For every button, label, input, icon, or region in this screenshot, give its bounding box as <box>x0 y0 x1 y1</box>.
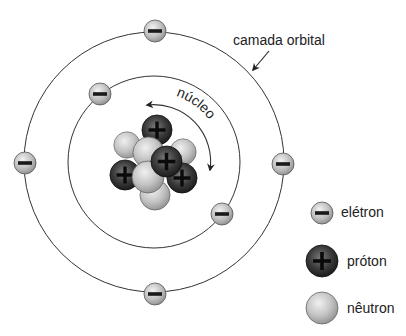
nucleus-label: núcleo <box>175 84 219 122</box>
nucleus <box>110 115 197 210</box>
legend-electron-icon <box>311 202 333 224</box>
legend-proton-icon <box>306 245 338 277</box>
electron-icon <box>272 153 294 175</box>
legend-electron-label: elétron <box>341 204 384 220</box>
legend: elétron próton nêutron <box>306 202 394 324</box>
orbital-shell-arrow <box>253 51 269 70</box>
electron-icon <box>144 20 166 42</box>
electron-icon <box>14 152 36 174</box>
proton-icon <box>151 146 182 177</box>
electron-icon <box>211 203 233 225</box>
electron-icon <box>89 83 111 105</box>
electron-icon <box>144 283 166 305</box>
legend-proton-label: próton <box>347 253 387 269</box>
orbital-shell-label: camada orbital <box>233 32 325 48</box>
legend-neutron-label: nêutron <box>347 300 394 316</box>
atom-diagram: núcleo camada orbital elétron próton nêu… <box>0 0 406 336</box>
legend-neutron-icon <box>306 292 338 324</box>
